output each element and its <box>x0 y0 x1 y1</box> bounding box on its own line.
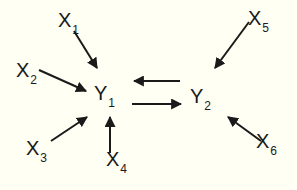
node-x5-sub: 5 <box>262 21 269 35</box>
node-y1: Y1 <box>94 83 114 103</box>
arrow-x3-to-y1 <box>51 117 87 141</box>
arrow-x2-to-y1 <box>39 70 86 91</box>
node-x4: X4 <box>106 149 126 169</box>
node-x1: X1 <box>58 10 78 30</box>
node-x1-base: X <box>58 9 71 31</box>
arrow-line <box>215 22 249 68</box>
node-y1-base: Y <box>94 82 107 104</box>
node-x6-sub: 6 <box>270 144 277 158</box>
node-x5-base: X <box>248 7 261 29</box>
node-x2: X2 <box>16 60 36 80</box>
node-x2-base: X <box>16 59 29 81</box>
arrow-line <box>39 70 86 91</box>
node-x4-sub: 4 <box>120 162 127 176</box>
node-y2-sub: 2 <box>204 99 211 113</box>
node-y2: Y2 <box>190 86 210 106</box>
node-y1-sub: 1 <box>108 96 115 110</box>
node-x6: X6 <box>256 131 276 151</box>
node-y2-base: Y <box>190 85 203 107</box>
node-x5: X5 <box>248 8 268 28</box>
node-x3-base: X <box>26 137 39 159</box>
node-x3-sub: 3 <box>40 151 47 165</box>
node-x4-base: X <box>106 148 119 170</box>
path-diagram: X1 X2 Y1 X3 X4 Y2 X5 X6 <box>0 0 297 190</box>
arrow-line <box>51 117 87 141</box>
node-x2-sub: 2 <box>30 73 37 87</box>
arrow-x5-to-y2 <box>215 22 249 68</box>
node-x1-sub: 1 <box>72 23 79 37</box>
node-x3: X3 <box>26 138 46 158</box>
node-x6-base: X <box>256 130 269 152</box>
